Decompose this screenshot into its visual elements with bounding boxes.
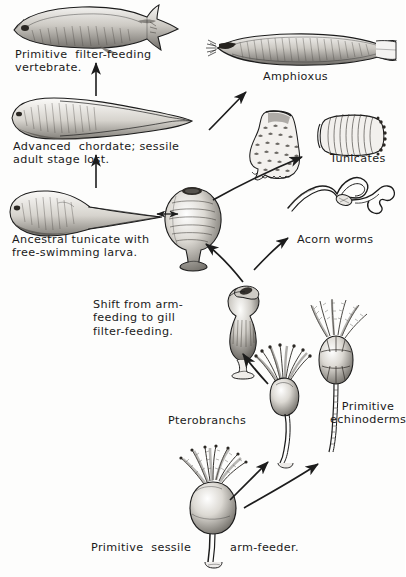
organism-acorn-worm [288,178,394,214]
arrow-armfeeder-to-pterobranch [230,462,268,500]
label-amphioxus: Amphioxus [263,70,328,83]
organism-advanced-chordate-larva [12,98,192,140]
label-advanced-chordate: Advanced chordate; sessile adult stage l… [13,140,179,167]
label-acorn-worms: Acorn worms [297,233,373,246]
label-ancestral-tunicate: Ancestral tunicate with free-swimming la… [12,233,149,260]
label-pterobranchs: Pterobranchs [168,414,246,427]
organism-sessile-tunicate [165,187,221,271]
label-shift-note: Shift from arm- feeding to gill filter-f… [93,298,183,338]
organism-amphioxus [206,34,396,65]
organism-primitive-echinoderm [311,299,367,452]
organism-colonial-tunicate [318,114,387,157]
arrow-tunicate-to-acornworms [254,238,288,270]
organism-ancestral-tunicate-larva [10,191,162,236]
label-tunicates: Tunicates [330,152,386,165]
label-primitive-echinoderms: Primitive echinoderms [330,400,406,427]
label-primitive-sessile: Primitive sessile [91,541,191,554]
arrow-gillfeeder-to-tunicate [206,244,243,282]
label-arm-feeder: arm-feeder. [230,541,299,554]
organism-pterobranch [254,343,311,468]
organism-gill-filter-feeder [228,286,259,379]
organism-primitive-vertebrate-fish [14,5,178,53]
label-primitive-vertebrate: Primitive filter-feeding vertebrate. [15,48,152,75]
arrow-armfeeder-to-echinoderm [244,464,318,508]
arrow-tunicate-to-amphioxus [209,92,246,130]
